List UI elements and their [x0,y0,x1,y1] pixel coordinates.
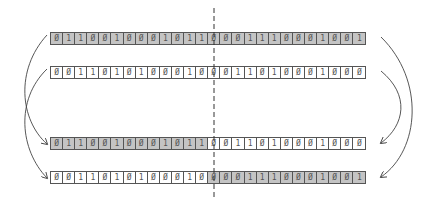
arrow-parent-a-to-child-1 [25,35,47,144]
arrow-parent-a-right-to-child-2 [381,37,412,177]
arrow-parent-b-to-child-2 [25,69,47,178]
arrow-parent-b-right-to-child-1 [381,71,401,143]
connectors [0,0,423,206]
